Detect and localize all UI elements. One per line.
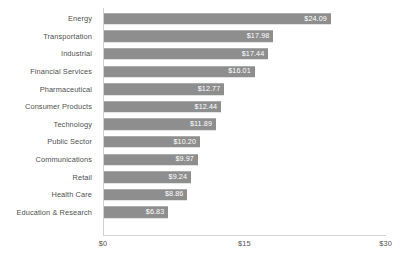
bar[interactable]: $17.44 (104, 48, 268, 60)
table-row: Communications $9.97 (0, 151, 411, 169)
bar[interactable]: $24.09 (104, 13, 331, 25)
bar-chart: Energy $24.09 Transportation $17.98 Indu… (0, 0, 411, 267)
table-row: Health Care $8.86 (0, 186, 411, 204)
bar-cell: $17.98 (98, 28, 411, 46)
bar-value-label: $24.09 (304, 15, 331, 23)
category-label: Transportation (0, 32, 98, 41)
bar[interactable]: $9.97 (104, 154, 198, 166)
bar[interactable]: $12.77 (104, 83, 224, 95)
table-row: Public Sector $10.20 (0, 133, 411, 151)
table-row: Retail $9.24 (0, 168, 411, 186)
category-label: Retail (0, 173, 98, 182)
table-row: Education & Research $6.83 (0, 204, 411, 222)
bar-value-label: $12.44 (195, 103, 222, 111)
plot-area: Energy $24.09 Transportation $17.98 Indu… (0, 10, 411, 235)
table-row: Consumer Products $12.44 (0, 98, 411, 116)
bar-cell: $10.20 (98, 133, 411, 151)
bar[interactable]: $12.44 (104, 101, 221, 113)
table-row: Technology $11.89 (0, 116, 411, 134)
bar-value-label: $10.20 (173, 138, 200, 146)
bar-cell: $8.86 (98, 186, 411, 204)
bar-cell: $17.44 (98, 45, 411, 63)
bar[interactable]: $9.24 (104, 171, 191, 183)
y-axis-line (103, 8, 104, 235)
bar[interactable]: $17.98 (104, 31, 273, 43)
bar-value-label: $9.24 (169, 173, 192, 181)
bar-cell: $6.83 (98, 204, 411, 222)
bar-value-label: $8.86 (165, 191, 188, 199)
table-row: Pharmaceutical $12.77 (0, 80, 411, 98)
category-label: Health Care (0, 190, 98, 199)
table-row: Energy $24.09 (0, 10, 411, 28)
bar-value-label: $16.01 (228, 68, 255, 76)
x-tick-label: $30 (379, 239, 392, 249)
category-label: Public Sector (0, 137, 98, 146)
category-label: Technology (0, 120, 98, 129)
bar-cell: $16.01 (98, 63, 411, 81)
table-row: Transportation $17.98 (0, 28, 411, 46)
bar[interactable]: $11.89 (104, 119, 216, 131)
x-axis-line (103, 235, 386, 236)
category-label: Pharmaceutical (0, 85, 98, 94)
category-label: Education & Research (0, 208, 98, 217)
bar-cell: $12.77 (98, 80, 411, 98)
bar-value-label: $11.89 (190, 120, 216, 128)
bar-cell: $11.89 (98, 116, 411, 134)
bar-cell: $24.09 (98, 10, 411, 28)
table-row: Financial Services $16.01 (0, 63, 411, 81)
bar-cell: $9.97 (98, 151, 411, 169)
category-label: Energy (0, 14, 98, 23)
bar-cell: $9.24 (98, 168, 411, 186)
category-label: Industrial (0, 49, 98, 58)
x-axis-ticks: $0 $15 $30 (0, 239, 411, 253)
x-tick-label: $15 (238, 239, 251, 249)
bar-value-label: $9.97 (175, 156, 198, 164)
bar-cell: $12.44 (98, 98, 411, 116)
bar-value-label: $17.98 (247, 32, 274, 40)
table-row: Industrial $17.44 (0, 45, 411, 63)
bar-value-label: $17.44 (242, 50, 269, 58)
bar[interactable]: $16.01 (104, 66, 255, 78)
x-tick-label: $0 (99, 239, 107, 249)
category-label: Communications (0, 155, 98, 164)
bar-value-label: $12.77 (198, 85, 225, 93)
bar[interactable]: $6.83 (104, 207, 168, 219)
bar[interactable]: $10.20 (104, 136, 200, 148)
bar[interactable]: $8.86 (104, 189, 187, 201)
bar-value-label: $6.83 (146, 208, 169, 216)
category-label: Consumer Products (0, 102, 98, 111)
category-label: Financial Services (0, 67, 98, 76)
